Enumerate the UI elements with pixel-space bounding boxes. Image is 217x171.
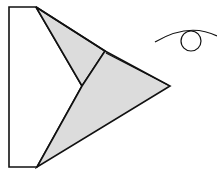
eye-icon xyxy=(155,30,217,51)
origami-diagram: Folded paper airplane / origami flap vie… xyxy=(0,0,217,171)
diagram-svg xyxy=(0,0,217,171)
